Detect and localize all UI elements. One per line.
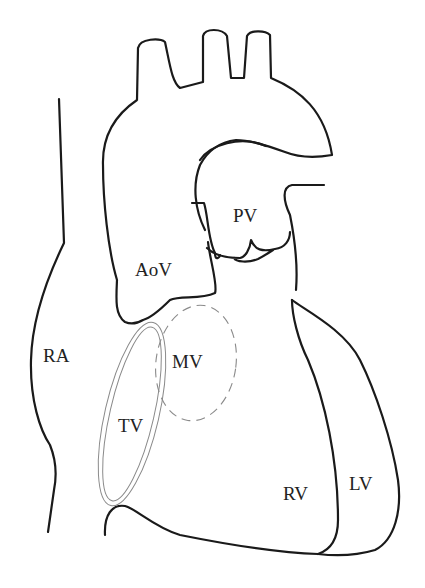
aortic-arch-fold — [200, 141, 266, 160]
right-atrium-outline — [31, 99, 64, 532]
interventricular-septum — [292, 300, 338, 554]
tricuspid-valve-inner — [91, 322, 174, 505]
label-pv: PV — [233, 205, 258, 226]
label-mv: MV — [172, 351, 203, 372]
pulmonary-artery-outline — [192, 185, 324, 290]
ventricles-outline — [105, 300, 399, 555]
label-aov: AoV — [135, 259, 172, 280]
label-tv: TV — [118, 415, 144, 436]
label-rv: RV — [283, 483, 308, 504]
tricuspid-valve-outer — [85, 316, 180, 511]
label-lv: LV — [349, 473, 373, 494]
label-ra: RA — [43, 345, 70, 366]
heart-diagram: RA AoV PV MV TV RV LV — [0, 0, 425, 588]
